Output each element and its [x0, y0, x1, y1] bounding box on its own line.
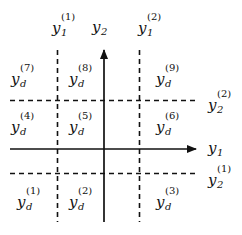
- region-label-5: yd(5): [69, 120, 77, 135]
- region-label-1: yd(1): [17, 195, 25, 210]
- y1-axis-label: y1: [208, 141, 216, 156]
- region-label-3: yd(3): [156, 195, 164, 210]
- region-label-2: yd(2): [69, 195, 77, 210]
- threshold-label-y1-2: y1(2): [138, 21, 146, 36]
- region-label-8: yd(8): [69, 72, 77, 87]
- threshold-label-y2-1: y2(1): [208, 173, 216, 188]
- threshold-label-y2-2: y2(2): [208, 98, 216, 113]
- diagram-canvas: [0, 0, 242, 235]
- region-label-7: yd(7): [11, 72, 19, 87]
- region-label-9: yd(9): [156, 72, 164, 87]
- region-label-4: yd(4): [11, 120, 19, 135]
- region-label-6: yd(6): [156, 120, 164, 135]
- y2-axis-label: y2: [92, 20, 100, 35]
- threshold-label-y1-1: y1(1): [52, 21, 60, 36]
